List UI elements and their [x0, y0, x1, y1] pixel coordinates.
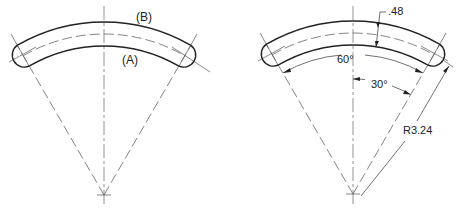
arrowhead — [403, 90, 411, 95]
arrowhead — [353, 77, 360, 81]
dim-thickness: .48 — [388, 5, 403, 17]
left-figure: (B) (A) — [9, 6, 210, 205]
radius-extension-line — [443, 60, 453, 67]
radial-line-right — [353, 44, 440, 194]
drawing-canvas: (B) (A) 60° 30° .48 — [0, 0, 456, 211]
radial-line-right — [104, 45, 191, 195]
arrowhead — [283, 68, 291, 73]
dim-radius: R3.24 — [403, 124, 432, 136]
dim-half-angle: 30° — [371, 78, 388, 90]
arrowhead — [443, 66, 449, 73]
dim-included-angle: 60° — [337, 53, 354, 65]
arrowhead — [415, 68, 423, 73]
radial-line-left — [266, 44, 353, 194]
label-b: (B) — [136, 10, 152, 24]
right-figure: 60° 30° .48 R3.24 — [258, 5, 453, 205]
arrowhead — [376, 22, 380, 28]
radial-line-left — [17, 45, 104, 195]
radius-dim-line-upper — [417, 66, 449, 121]
label-a: (A) — [122, 53, 138, 67]
